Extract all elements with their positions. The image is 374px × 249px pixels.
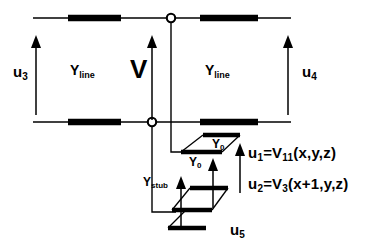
equation-u2: u2=V3(x+1,y,z) [248,176,348,191]
label-y-line-left: Yline [70,63,95,77]
v-arrow [147,35,157,120]
label-u4: u4 [302,64,317,79]
u4-arrow [283,35,293,115]
circuit-vector-layer [0,0,374,249]
upper-stub-diagonal-right [222,135,240,152]
top-node-to-upper-stub-connector [171,18,190,152]
middle-stub-diagonal-right [212,188,228,210]
u2-arrow [208,158,218,208]
label-y0-upper: Y0 [212,138,224,150]
label-u5: u5 [230,222,245,237]
u3-arrow [31,35,41,115]
label-y-line-right: Yline [205,63,230,77]
circuit-diagram-canvas: u3 Yline V Yline u4 Y0 Y0 Ystub u5 u1=V1… [0,0,374,249]
label-u3: u3 [13,64,28,79]
u1-arrow [235,143,245,193]
upper-stub-diagonal-left [181,135,203,152]
label-v: V [130,56,147,82]
top-junction-node [167,14,175,22]
bottom-node-to-lower-stub-connector [152,122,176,212]
label-y-stub: Ystub [143,176,168,188]
equation-u1: u1=V11(x,y,z) [248,145,336,160]
label-y0-lower: Y0 [189,156,201,168]
